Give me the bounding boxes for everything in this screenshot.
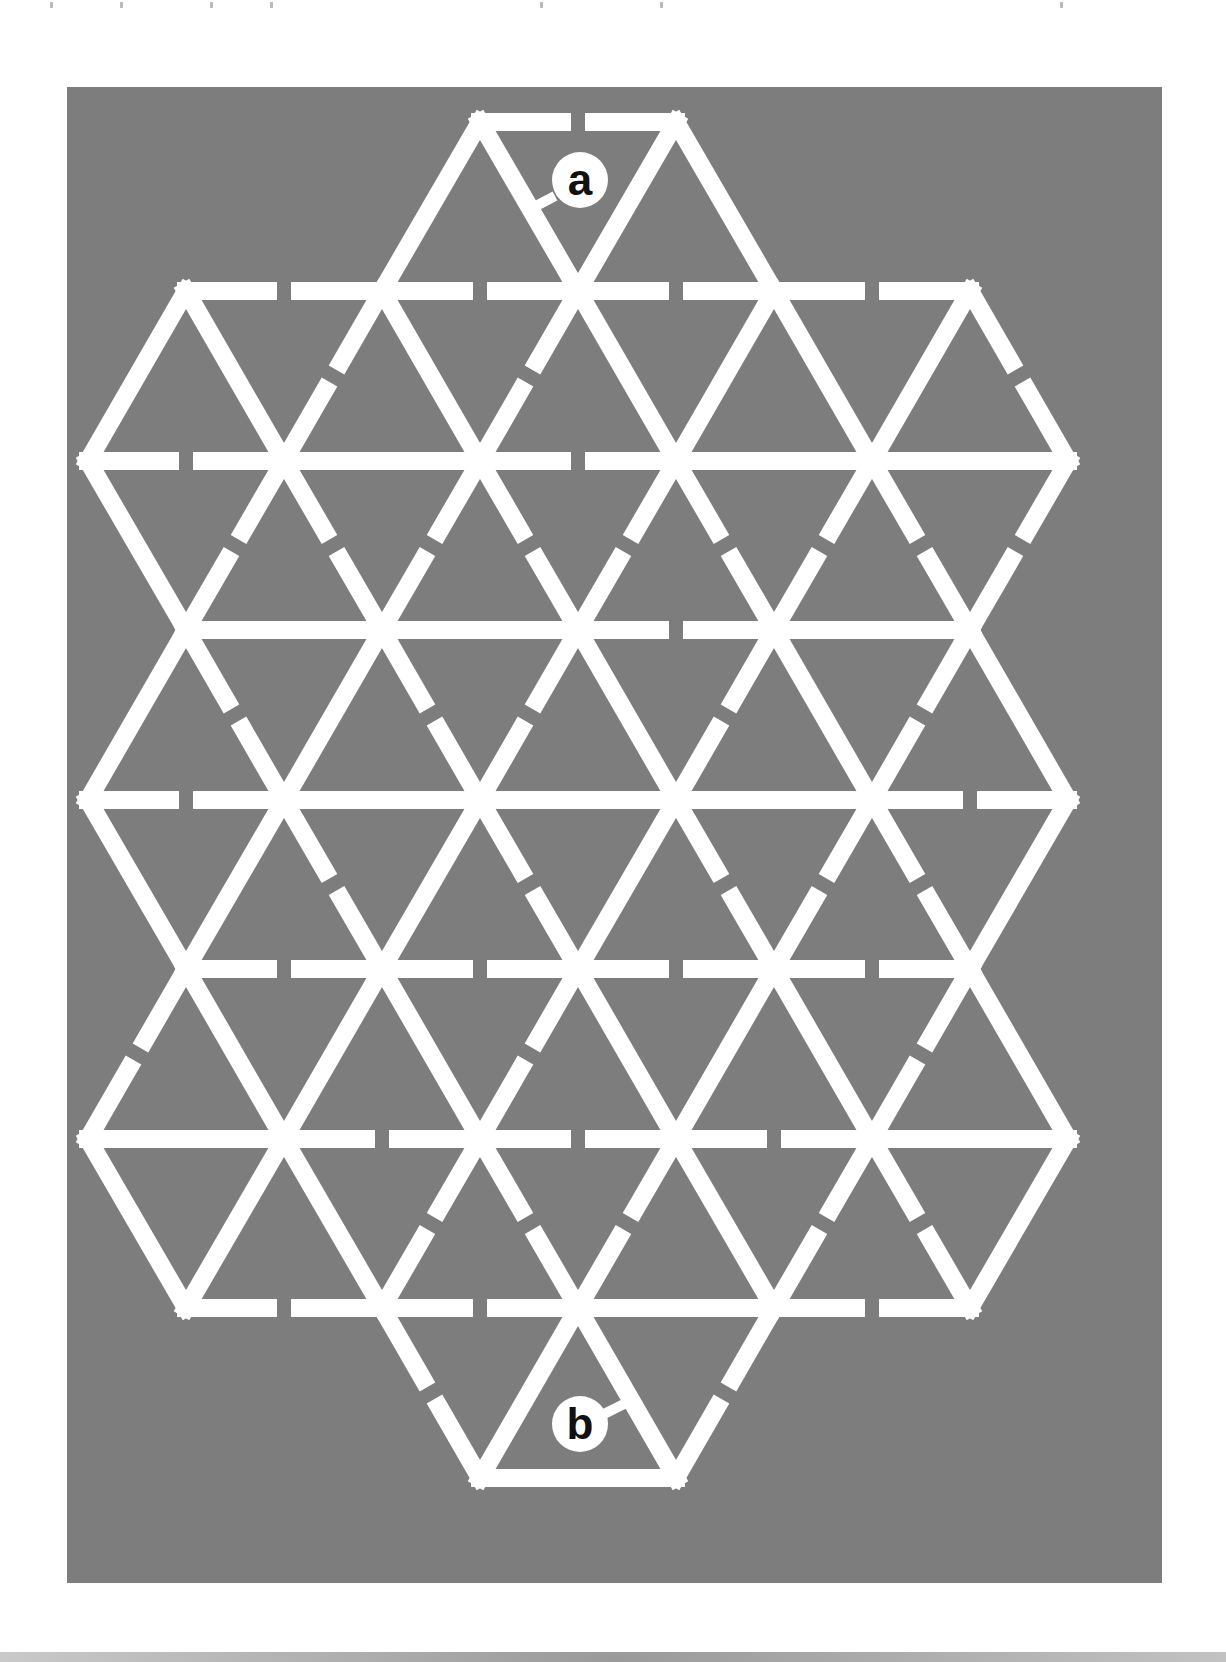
- maze-wall: [831, 800, 872, 871]
- maze-wall: [635, 1139, 676, 1210]
- maze-wall: [929, 630, 970, 701]
- maze-wall: [578, 559, 619, 630]
- maze-wall: [1027, 461, 1068, 532]
- marker-a: a: [536, 152, 608, 208]
- maze-wall: [929, 559, 970, 630]
- maze-wall: [186, 800, 284, 969]
- maze-wall: [480, 390, 521, 461]
- maze-wall: [733, 1308, 774, 1379]
- maze-wall: [284, 969, 382, 1139]
- maze-walls: ab: [0, 0, 1226, 1662]
- maze-wall: [676, 291, 774, 461]
- maze-wall: [186, 1139, 284, 1308]
- maze-wall: [872, 291, 970, 461]
- maze-wall: [341, 559, 382, 630]
- maze-wall: [88, 1139, 186, 1308]
- maze-wall: [970, 630, 1068, 800]
- maze-wall: [970, 800, 1068, 969]
- maze-wall: [578, 1237, 619, 1308]
- maze-wall: [186, 969, 284, 1139]
- maze-wall: [872, 800, 913, 871]
- maze-wall: [284, 1139, 382, 1308]
- maze-wall: [774, 291, 872, 461]
- maze-wall: [578, 122, 676, 291]
- maze-wall: [872, 729, 913, 800]
- maze-wall: [733, 559, 774, 630]
- maze-wall: [733, 630, 774, 701]
- maze-wall: [243, 729, 284, 800]
- maze-wall: [537, 630, 578, 701]
- maze-wall: [578, 969, 676, 1139]
- maze-wall: [88, 800, 186, 969]
- maze-wall: [676, 969, 774, 1139]
- maze-wall: [676, 461, 717, 532]
- maze-wall: [929, 898, 970, 969]
- maze-wall: [480, 1068, 521, 1139]
- maze-wall: [774, 1237, 815, 1308]
- maze-wall: [676, 800, 717, 871]
- maze-wall: [578, 291, 676, 461]
- maze-wall: [480, 800, 521, 871]
- maze-wall: [88, 630, 186, 800]
- maze-wall: [439, 1139, 480, 1210]
- maze-wall: [382, 800, 480, 969]
- wall-group: [88, 122, 1068, 1478]
- maze-wall: [537, 291, 578, 362]
- maze-wall: [382, 122, 480, 291]
- maze-wall: [929, 969, 970, 1040]
- maze-wall: [970, 969, 1068, 1139]
- maze-wall: [578, 800, 676, 969]
- maze-wall: [676, 122, 774, 291]
- maze-wall: [284, 630, 382, 800]
- maze-wall: [186, 559, 227, 630]
- maze-wall: [929, 1237, 970, 1308]
- maze-wall: [186, 291, 284, 461]
- maze-wall: [439, 461, 480, 532]
- maze-wall: [831, 1139, 872, 1210]
- maze-wall: [341, 898, 382, 969]
- maze-wall: [872, 461, 913, 532]
- maze-wall: [284, 461, 325, 532]
- maze-wall: [537, 1237, 578, 1308]
- maze-wall: [341, 291, 382, 362]
- maze-wall: [382, 559, 423, 630]
- maze-wall: [382, 630, 423, 701]
- maze-wall: [480, 461, 521, 532]
- maze-wall: [578, 630, 676, 800]
- maze-wall: [88, 291, 186, 461]
- maze-wall: [774, 630, 872, 800]
- maze-wall: [970, 559, 1011, 630]
- maze-wall: [970, 291, 1011, 362]
- maze-wall: [578, 1308, 676, 1478]
- bottom-page-edge: [0, 1652, 1226, 1662]
- maze-wall: [480, 729, 521, 800]
- maze-wall: [872, 1068, 913, 1139]
- maze-wall: [774, 898, 815, 969]
- marker-leader: [536, 196, 555, 206]
- maze-wall: [284, 390, 325, 461]
- maze-wall: [382, 1308, 423, 1379]
- maze-wall: [537, 969, 578, 1040]
- maze-wall: [872, 1139, 913, 1210]
- maze-wall: [676, 729, 717, 800]
- maze-wall: [635, 461, 676, 532]
- maze-wall: [243, 461, 284, 532]
- maze-wall: [439, 729, 480, 800]
- maze-wall: [676, 1407, 717, 1478]
- maze-wall: [831, 461, 872, 532]
- maze-wall: [88, 461, 186, 630]
- maze-wall: [382, 1237, 423, 1308]
- maze-wall: [970, 1139, 1068, 1308]
- marker-leader: [604, 1402, 628, 1414]
- maze-wall: [382, 969, 480, 1139]
- maze-wall: [88, 1068, 129, 1139]
- maze-wall: [480, 1308, 578, 1478]
- maze-wall: [284, 800, 325, 871]
- maze-wall: [537, 898, 578, 969]
- marker-label: a: [568, 155, 593, 204]
- maze-wall: [1027, 390, 1068, 461]
- maze-wall: [774, 559, 815, 630]
- maze-wall: [186, 630, 227, 701]
- maze-wall: [145, 969, 186, 1040]
- maze-wall: [439, 1407, 480, 1478]
